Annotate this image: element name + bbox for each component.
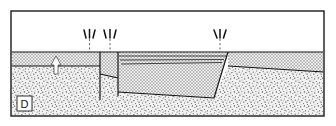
section-interior [11,11,324,116]
stipple-basement-sliver [100,74,118,116]
panel-letter-text: D [21,98,29,110]
figure-panel: D [0,0,336,126]
panel-letter: D [17,96,32,111]
cross-section-diagram: D [0,0,336,126]
crosshatch-rotated-block [118,52,228,98]
